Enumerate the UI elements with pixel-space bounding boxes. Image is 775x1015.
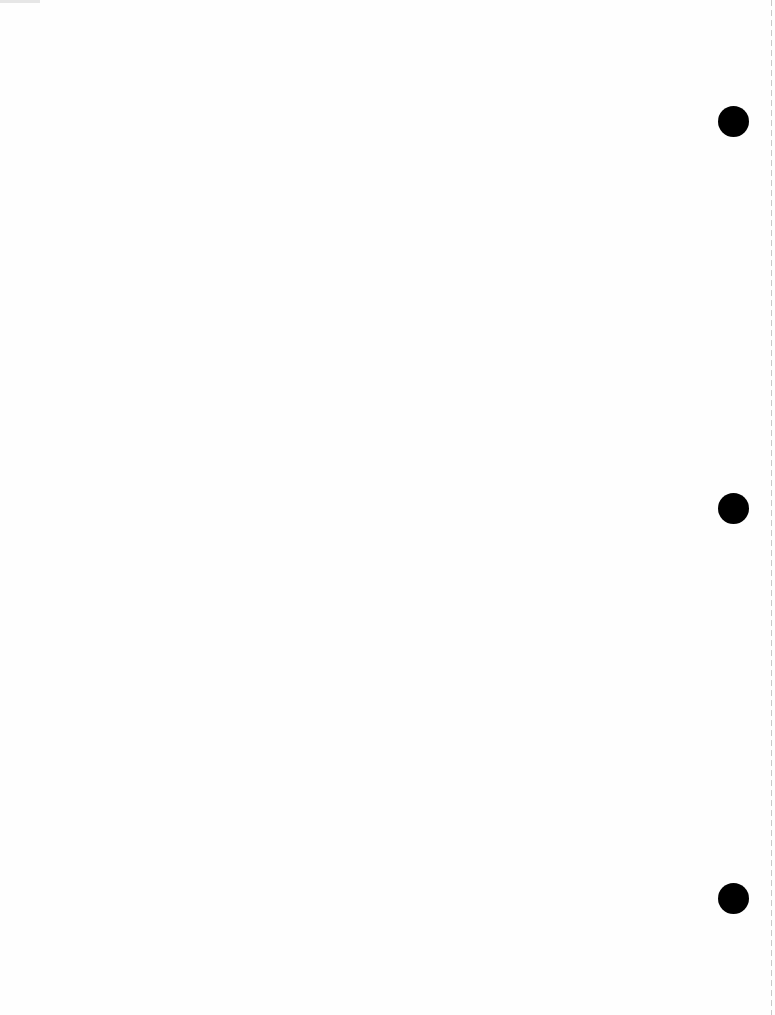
page-edge: [771, 0, 772, 1015]
punch-hole-bottom: [718, 883, 749, 914]
punch-hole-middle: [718, 493, 749, 524]
punch-hole-top: [718, 106, 749, 137]
blank-page: [0, 0, 775, 1015]
scan-artifact: [0, 0, 40, 3]
